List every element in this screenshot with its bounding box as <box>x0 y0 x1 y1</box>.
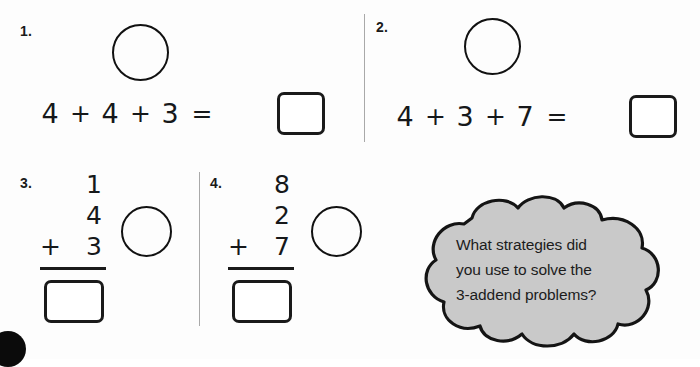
circle-icon[interactable] <box>121 206 172 257</box>
problem-number-4: 4. <box>210 176 222 190</box>
addend: 8 <box>274 170 290 199</box>
addend: 4 <box>395 103 415 130</box>
plus-operator: + <box>70 101 90 126</box>
answer-box-4[interactable] <box>232 280 292 323</box>
answer-box-2[interactable] <box>629 95 677 138</box>
addend-row: 2 <box>228 203 294 234</box>
addend: 4 <box>86 201 102 230</box>
circle-icon[interactable] <box>311 206 362 257</box>
vertical-divider-bottom <box>199 172 200 326</box>
sum-rule <box>228 267 294 270</box>
addend: 3 <box>86 232 102 261</box>
addend: 4 <box>40 100 60 127</box>
equation-1: 4 + 4 + 3 = <box>40 100 222 127</box>
addend-row: 8 <box>228 172 294 203</box>
cloud-text-line-2: you use to solve the <box>456 257 640 282</box>
plus-operator: + <box>485 104 505 129</box>
addend-row: + 3 <box>40 234 106 265</box>
thought-cloud: What strategies did you use to solve the… <box>410 192 668 352</box>
equals-sign: = <box>190 101 214 126</box>
addend: 1 <box>86 170 102 199</box>
addend: 2 <box>274 201 290 230</box>
cloud-text: What strategies did you use to solve the… <box>456 232 640 307</box>
addend-row: + 7 <box>228 234 294 265</box>
vertical-divider-top <box>364 14 365 142</box>
addend: 3 <box>455 103 475 130</box>
plus-operator: + <box>130 101 150 126</box>
problem-number-2: 2. <box>376 20 388 34</box>
page-artifact-blob <box>0 331 26 367</box>
equation-2: 4 + 3 + 7 = <box>395 103 577 130</box>
plus-operator: + <box>425 104 445 129</box>
column-problem-3: 1 4 + 3 <box>40 172 106 270</box>
cloud-text-line-3: 3-addend problems? <box>456 282 640 307</box>
plus-operator: + <box>40 234 61 259</box>
sum-rule <box>40 267 106 270</box>
column-problem-4: 8 2 + 7 <box>228 172 294 270</box>
circle-icon[interactable] <box>112 24 169 81</box>
addend-row: 4 <box>40 203 106 234</box>
circle-icon[interactable] <box>464 18 521 75</box>
problem-number-3: 3. <box>20 176 32 190</box>
addend: 7 <box>274 232 290 261</box>
equals-sign: = <box>545 104 569 129</box>
addend: 4 <box>100 100 120 127</box>
answer-box-3[interactable] <box>44 280 104 323</box>
addend-row: 1 <box>40 172 106 203</box>
answer-box-1[interactable] <box>277 92 325 135</box>
cloud-text-line-1: What strategies did <box>456 232 640 257</box>
addend: 7 <box>515 103 535 130</box>
addend: 3 <box>160 100 180 127</box>
problem-number-1: 1. <box>20 24 32 38</box>
plus-operator: + <box>228 234 249 259</box>
